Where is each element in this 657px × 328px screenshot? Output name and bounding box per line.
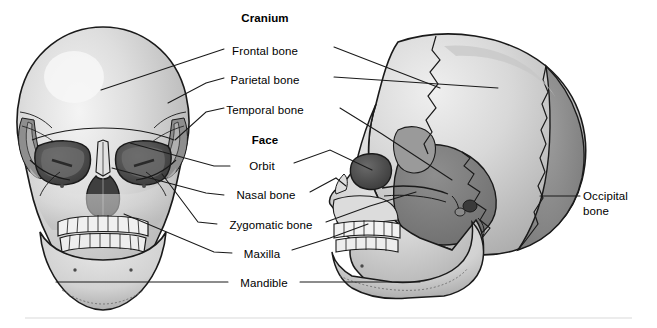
heading-face: Face <box>252 134 279 146</box>
label-nasal-bone: Nasal bone <box>236 189 295 201</box>
heading-cranium: Cranium <box>241 12 288 24</box>
label-temporal-bone: Temporal bone <box>226 104 303 116</box>
label-mandible: Mandible <box>240 277 287 289</box>
left-infraorbital-foramen <box>60 184 64 188</box>
label-orbit: Orbit <box>249 160 274 172</box>
label-zygomatic-bone: Zygomatic bone <box>229 219 312 231</box>
right-infraorbital-foramen <box>142 184 146 188</box>
external-acoustic-meatus <box>463 200 477 212</box>
forehead-highlight <box>44 51 104 103</box>
label-maxilla: Maxilla <box>244 248 281 260</box>
label-frontal-bone: Frontal bone <box>232 45 298 57</box>
skull-illustration <box>0 0 657 328</box>
mandibular-condyle <box>455 208 465 216</box>
left-mental-foramen <box>73 268 76 271</box>
label-parietal-bone: Parietal bone <box>230 74 299 86</box>
right-mental-foramen <box>129 268 132 271</box>
label-occipital-bone: Occipital bone <box>583 189 643 218</box>
lateral-orbit <box>350 154 391 190</box>
sphenoid-region <box>394 127 436 173</box>
skull-anatomy-figure: Cranium Face Frontal bone Parietal bone … <box>0 0 657 328</box>
lateral-mental-foramen <box>360 264 363 267</box>
lateral-skull-view <box>329 34 585 299</box>
